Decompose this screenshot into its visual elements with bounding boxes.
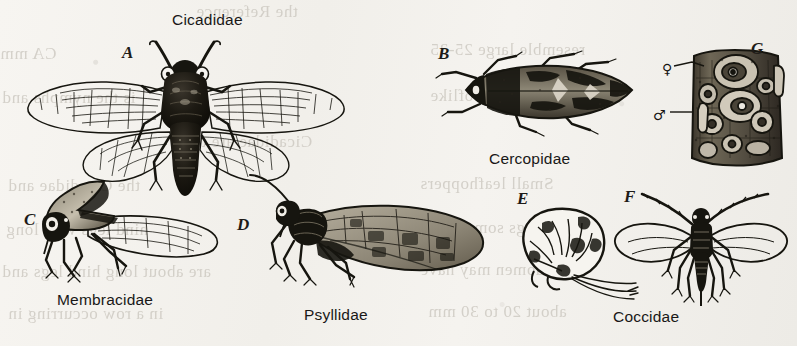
figure-b-spittlebug-illustration [440,50,660,150]
figure-d-psyllid-illustration [250,175,500,300]
figure-letter-b: B [438,45,449,62]
family-label-cercopidae: Cercopidae [489,151,570,167]
figure-letter-c: C [24,211,35,228]
family-label-membracidae: Membracidae [57,292,153,308]
family-label-cicadidae: Cicadidae [172,12,243,28]
figure-letter-e: E [517,190,528,207]
figure-letter-a: A [122,44,133,61]
figure-c-treehopper-illustration [30,168,240,293]
family-label-coccidae: Coccidae [613,309,679,325]
figure-letter-f: F [624,188,635,205]
female-symbol-icon: ♀ [662,62,672,76]
figure-plate: the Reference CA mm resemble large 25-35… [0,0,797,346]
figure-letter-d: D [237,216,249,233]
family-label-psyllidae: Psyllidae [304,307,368,323]
figure-letter-g: G [751,40,763,57]
male-symbol-icon: ♂ [653,108,666,122]
figure-f-winged-male-scale-insect-illustration [612,192,790,307]
ghost-text-line: about 20 to 30 mm [428,302,567,322]
